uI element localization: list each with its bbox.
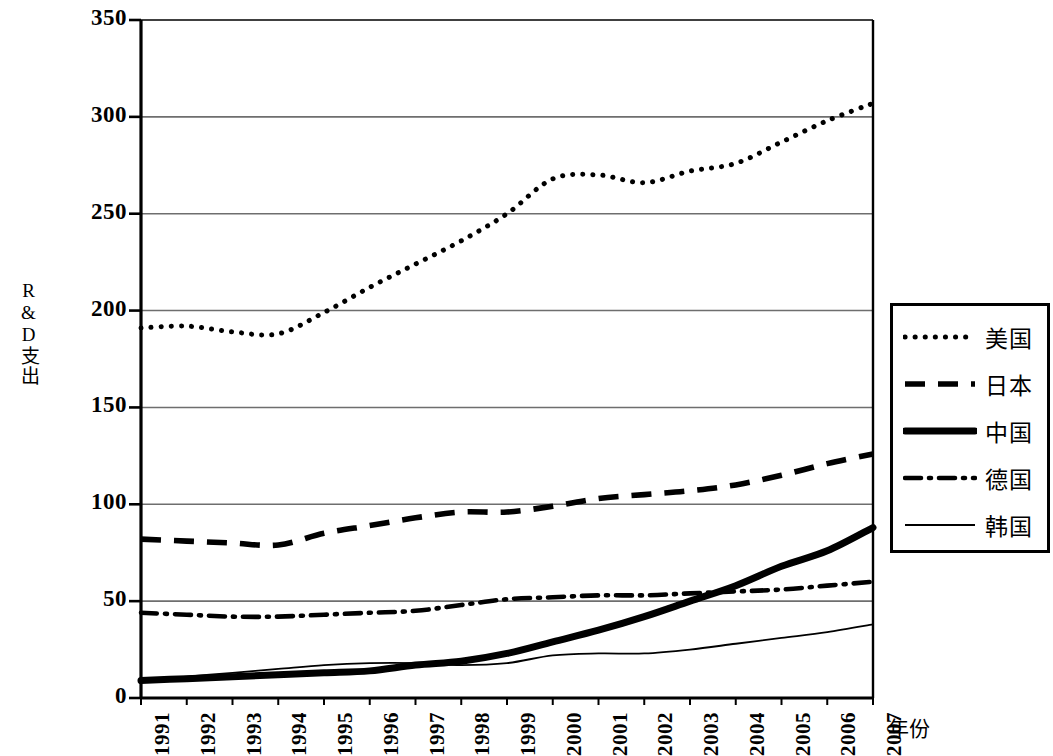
y-tick-label: 100 bbox=[55, 489, 127, 515]
y-tick-label: 350 bbox=[55, 5, 127, 31]
axis-lines bbox=[141, 20, 873, 698]
x-tick-label: 2003 bbox=[699, 712, 724, 756]
x-tick-label: 1992 bbox=[196, 712, 221, 756]
x-axis-title: 年份 bbox=[888, 712, 930, 742]
x-tick-label: 1995 bbox=[333, 712, 358, 756]
x-tick-label: 1998 bbox=[470, 712, 495, 756]
legend-swatch-dash-dot bbox=[903, 465, 977, 491]
x-tick-label: 2004 bbox=[745, 712, 770, 756]
y-tick-label: 200 bbox=[55, 296, 127, 322]
x-tick-label: 2006 bbox=[836, 712, 861, 756]
series-line-2 bbox=[141, 454, 873, 546]
series-line-4 bbox=[141, 582, 873, 617]
y-axis-title: R&D支出 bbox=[2, 280, 42, 386]
legend-label: 日本 bbox=[985, 367, 1033, 401]
x-tick-label: 1994 bbox=[287, 712, 312, 756]
axis-ticks bbox=[129, 20, 873, 705]
y-tick-label: 0 bbox=[55, 683, 127, 709]
legend-swatch-dashed bbox=[903, 371, 977, 397]
x-tick-label: 1991 bbox=[150, 712, 175, 756]
legend-item-1[interactable]: 美国 bbox=[893, 312, 1053, 362]
x-tick-label: 1993 bbox=[242, 712, 267, 756]
x-tick-label: 2005 bbox=[791, 712, 816, 756]
x-tick-label: 1999 bbox=[516, 712, 541, 756]
legend-item-5[interactable]: 韩国 bbox=[893, 500, 1053, 550]
legend-label: 中国 bbox=[985, 414, 1033, 448]
series-line-3 bbox=[141, 528, 873, 681]
data-series bbox=[141, 103, 873, 680]
legend-swatch-dotted bbox=[903, 324, 977, 350]
x-tick-label: 2002 bbox=[653, 712, 678, 756]
y-tick-label: 300 bbox=[55, 102, 127, 128]
x-tick-label: 2000 bbox=[562, 712, 587, 756]
legend-item-2[interactable]: 日本 bbox=[893, 359, 1053, 409]
x-tick-label: 1996 bbox=[379, 712, 404, 756]
legend-label: 德国 bbox=[985, 461, 1033, 495]
legend-swatch-thin-solid bbox=[903, 512, 977, 538]
legend-label: 美国 bbox=[985, 320, 1033, 354]
series-line-1 bbox=[141, 103, 873, 335]
legend-swatch-thick-solid bbox=[903, 418, 977, 444]
x-tick-label: 2001 bbox=[608, 712, 633, 756]
legend-item-3[interactable]: 中国 bbox=[893, 406, 1053, 456]
legend-item-4[interactable]: 德国 bbox=[893, 453, 1053, 503]
y-tick-label: 50 bbox=[55, 586, 127, 612]
legend-label: 韩国 bbox=[985, 508, 1033, 542]
y-tick-label: 250 bbox=[55, 199, 127, 225]
x-tick-label: 1997 bbox=[425, 712, 450, 756]
y-tick-label: 150 bbox=[55, 392, 127, 418]
chart-legend: 美国日本中国德国韩国 bbox=[890, 303, 1050, 553]
